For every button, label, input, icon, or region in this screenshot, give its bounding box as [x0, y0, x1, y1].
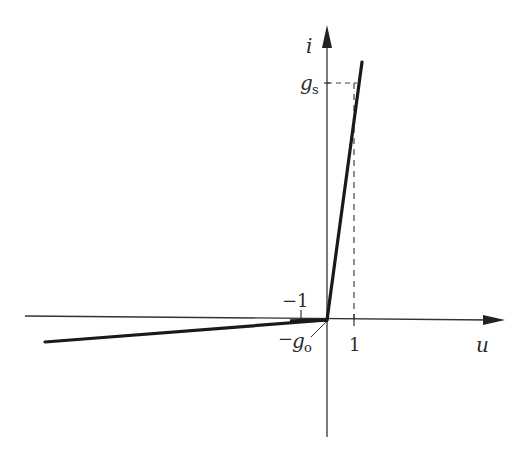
- go-leader-line: [311, 322, 326, 337]
- go-label-minus: −: [278, 328, 293, 349]
- forward-branch-line: [327, 62, 362, 320]
- i-axis-label: i: [306, 34, 312, 58]
- go-label-base: g: [292, 329, 305, 353]
- gs-label-base: g: [300, 71, 313, 95]
- gs-label-sub: s: [312, 82, 319, 97]
- iu-characteristic-diagram: i u g s −1 1 − g o: [0, 0, 531, 451]
- u-axis-arrow-icon: [483, 315, 505, 325]
- neg-one-label: −1: [282, 290, 309, 311]
- u-axis-label: u: [476, 333, 489, 357]
- u-axis: [25, 316, 490, 320]
- one-label: 1: [349, 334, 360, 355]
- go-label-sub: o: [304, 340, 312, 355]
- i-axis-arrow-icon: [322, 25, 332, 48]
- reverse-branch-thick-near-origin: [290, 320, 328, 321]
